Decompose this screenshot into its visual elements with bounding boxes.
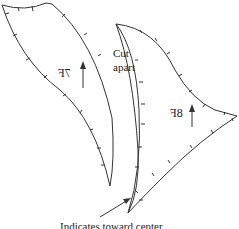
piece-8f-ticks [135, 30, 233, 200]
piece-label-7f: 7F [58, 68, 71, 79]
piece-label-8f: 8F [170, 108, 183, 119]
cut-apart-label-line2: apart [113, 62, 135, 73]
pattern-diagram [0, 0, 239, 229]
indicator-caption: Indicates toward center [60, 221, 163, 229]
cut-apart-label-line1: Cut [113, 48, 129, 59]
indicator-arrow [100, 200, 128, 217]
piece-7f-outline [2, 3, 113, 186]
